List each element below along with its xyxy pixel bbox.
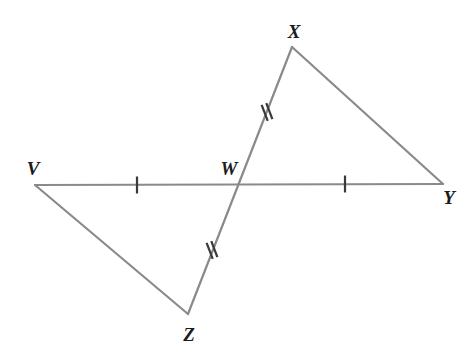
tick-marks-group (137, 103, 345, 259)
segments-group (35, 47, 443, 314)
segment-XY (292, 47, 443, 184)
segment-XZ (188, 47, 292, 314)
vertex-label-W: W (221, 159, 238, 178)
vertex-label-V: V (27, 159, 40, 178)
segment-VZ (35, 185, 188, 314)
geometry-figure: V W X Y Z (0, 0, 469, 353)
vertex-label-X: X (288, 22, 301, 41)
vertex-label-Z: Z (183, 325, 195, 344)
vertex-label-Y: Y (443, 188, 455, 207)
